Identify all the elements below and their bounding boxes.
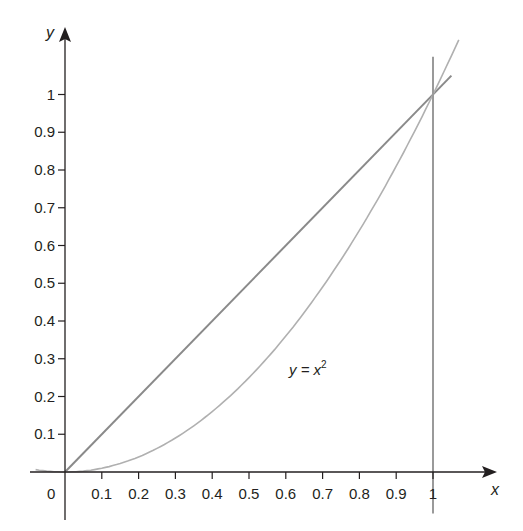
y-tick-label: 0.2 bbox=[34, 388, 55, 405]
x-tick-label: 0.7 bbox=[312, 485, 333, 502]
y-tick-label: 0.9 bbox=[34, 123, 55, 140]
chart: 0.10.20.30.40.50.60.70.80.910.10.20.30.4… bbox=[0, 0, 523, 531]
y-tick-label: 0.6 bbox=[34, 237, 55, 254]
y-tick-label: 0.1 bbox=[34, 425, 55, 442]
series-line-1 bbox=[36, 40, 459, 472]
curve-annotation-superscript: 2 bbox=[321, 359, 327, 370]
origin-label: 0 bbox=[47, 485, 55, 502]
x-tick-label: 0.5 bbox=[239, 485, 260, 502]
curve-annotation-base: y = x bbox=[288, 361, 322, 378]
x-tick-label: 0.9 bbox=[386, 485, 407, 502]
x-tick-label: 0.2 bbox=[128, 485, 149, 502]
tick-labels: 0.10.20.30.40.50.60.70.80.910.10.20.30.4… bbox=[34, 86, 437, 503]
x-tick-label: 1 bbox=[429, 485, 437, 502]
series-line-0 bbox=[65, 76, 451, 472]
x-axis-label: x bbox=[490, 481, 500, 498]
x-tick-label: 0.6 bbox=[275, 485, 296, 502]
y-tick-label: 0.8 bbox=[34, 161, 55, 178]
y-tick-label: 0.3 bbox=[34, 350, 55, 367]
y-tick-label: 0.5 bbox=[34, 274, 55, 291]
x-tick-label: 0.1 bbox=[91, 485, 112, 502]
x-tick-label: 0.4 bbox=[202, 485, 223, 502]
y-tick-label: 0.4 bbox=[34, 312, 55, 329]
y-tick-label: 0.7 bbox=[34, 199, 55, 216]
plot-area bbox=[36, 40, 459, 514]
y-axis-label: y bbox=[45, 24, 55, 41]
x-tick-label: 0.3 bbox=[165, 485, 186, 502]
y-tick-label: 1 bbox=[47, 86, 55, 103]
x-tick-label: 0.8 bbox=[349, 485, 370, 502]
curve-annotation: y = x2 bbox=[288, 359, 327, 378]
